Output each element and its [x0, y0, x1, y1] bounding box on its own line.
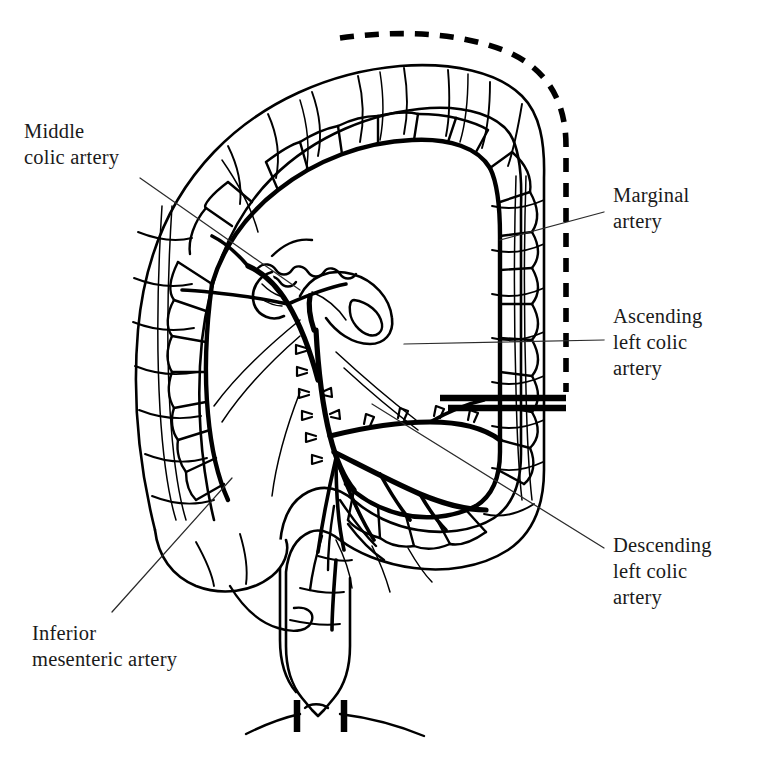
rectal-stump-shadow-left [246, 714, 300, 734]
figure-root: .out { fill:#ffffff; stroke:#000000; str… [0, 0, 757, 758]
label-descending-left-colic-artery: Descending left colic artery [613, 532, 712, 610]
label-marginal-artery: Marginal artery [613, 182, 689, 234]
colon-outline-group [136, 65, 544, 716]
label-middle-colic-artery: Middle colic artery [24, 118, 119, 170]
label-ascending-left-colic-artery: Ascending left colic artery [613, 303, 702, 381]
rectal-stump-shadow-right [340, 714, 424, 736]
label-inferior-mesenteric-artery: Inferior mesenteric artery [32, 620, 177, 672]
